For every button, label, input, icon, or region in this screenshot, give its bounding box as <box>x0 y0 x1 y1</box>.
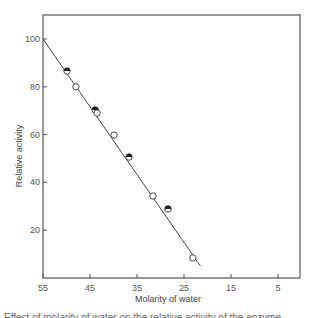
x-tick-label: 5 <box>275 283 280 293</box>
half-filled-circle-marker <box>64 68 70 74</box>
x-tick-label: 25 <box>179 283 189 293</box>
x-tick-label: 45 <box>85 283 95 293</box>
x-tick-label: 35 <box>132 283 142 293</box>
open-circle-marker <box>111 132 117 138</box>
x-axis-title: Molarity of water <box>135 294 201 304</box>
y-tick-label: 40 <box>30 177 40 187</box>
x-axis-ticks: 55453525155 <box>38 274 281 293</box>
x-tick-label: 55 <box>38 283 48 293</box>
chart: 20406080100 55453525155 Molarity of wate… <box>0 0 314 318</box>
y-tick-label: 80 <box>30 82 40 92</box>
open-circle-marker <box>94 110 100 116</box>
y-tick-label: 100 <box>25 34 40 44</box>
open-circle-marker <box>73 84 79 90</box>
y-tick-label: 20 <box>30 225 40 235</box>
plot-frame <box>43 15 300 278</box>
figure-caption: Effect of molarity of water on the relat… <box>4 311 281 318</box>
half-filled-circle-marker <box>165 206 171 212</box>
half-filled-circle-marker <box>126 154 132 160</box>
y-tick-label: 60 <box>30 130 40 140</box>
x-tick-label: 15 <box>226 283 236 293</box>
open-circle-marker <box>150 193 156 199</box>
y-axis-title: Relative activity <box>14 124 24 187</box>
y-axis-ticks: 20406080100 <box>25 34 47 235</box>
open-circle-marker <box>190 255 196 261</box>
